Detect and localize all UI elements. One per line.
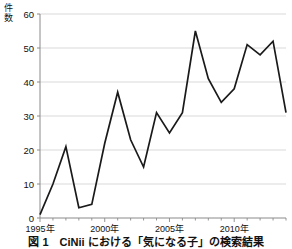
x-tick-label: 1995年 <box>25 223 54 234</box>
x-tick-labels-group: 1995年2000年2005年2010年 <box>25 223 248 234</box>
y-tick-label: 0 <box>29 213 34 224</box>
y-tick-label: 10 <box>23 179 34 190</box>
x-tick-label: 2005年 <box>155 223 184 234</box>
y-tick-labels-group: 0102030405060 <box>23 9 34 224</box>
figure-caption: 図 1 CiNii における「気になる子」の検索結果 <box>0 236 292 249</box>
x-tick-label: 2010年 <box>220 223 249 234</box>
x-tickmarks-group <box>40 218 286 222</box>
y-tick-label: 30 <box>23 111 34 122</box>
y-tick-label: 40 <box>23 77 34 88</box>
y-tick-label: 50 <box>23 43 34 54</box>
y-tick-label: 20 <box>23 145 34 156</box>
gridlines-group <box>40 14 286 184</box>
data-series-line <box>40 31 286 215</box>
y-tick-label: 60 <box>23 9 34 20</box>
x-tick-label: 2000年 <box>90 223 119 234</box>
